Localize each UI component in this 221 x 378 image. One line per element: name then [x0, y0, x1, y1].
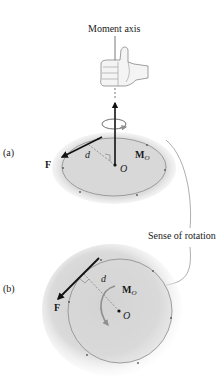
panel-a: [52, 103, 176, 204]
moment-figure: Moment axis Sense of rotation (a) F d MO…: [0, 0, 221, 378]
force-label-b: F: [54, 303, 60, 313]
moment-axis-label: Moment axis: [88, 24, 141, 34]
distance-label-a: d: [85, 150, 90, 160]
panel-b: [42, 244, 182, 376]
panel-b-label: (b): [3, 284, 15, 294]
point-o-a: [113, 163, 116, 166]
sense-of-rotation-label: Sense of rotation: [148, 231, 216, 241]
moment-label-a: MO: [135, 150, 150, 162]
point-o-b: [117, 309, 120, 312]
panel-a-label: (a): [3, 148, 14, 158]
rotation-arrow-icon: [102, 119, 126, 129]
distance-label-b: d: [101, 274, 106, 284]
moment-label-b: MO: [122, 285, 137, 297]
point-label-b: O: [123, 311, 130, 321]
force-label-a: F: [45, 160, 51, 170]
diagram-canvas: [0, 0, 221, 378]
thumbs-up-hand-icon: [101, 47, 148, 86]
rotation-path-a: [62, 138, 166, 196]
point-label-a: O: [120, 164, 127, 174]
